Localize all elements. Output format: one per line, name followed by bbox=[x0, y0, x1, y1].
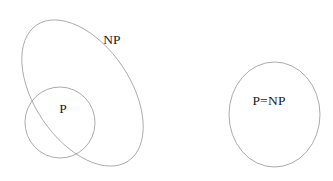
p-label: P bbox=[59, 101, 67, 116]
p-equals-np-ellipse bbox=[229, 62, 320, 167]
p-ellipse bbox=[19, 81, 100, 163]
venn-diagram-canvas: NP P P=NP bbox=[0, 0, 333, 181]
p-equals-np-panel: P=NP bbox=[229, 62, 320, 167]
np-label: NP bbox=[103, 32, 121, 47]
p-subset-np-panel: NP P bbox=[0, 0, 168, 181]
p-equals-np-label: P=NP bbox=[252, 93, 285, 108]
figure-root: NP P P=NP bbox=[0, 0, 333, 181]
np-ellipse bbox=[0, 0, 168, 181]
